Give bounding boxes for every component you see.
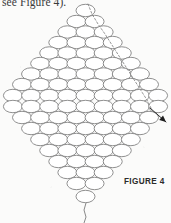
bead: [40, 144, 59, 156]
bead: [3, 89, 22, 101]
bead: [3, 100, 22, 112]
bead: [40, 89, 59, 101]
bead: [112, 100, 131, 112]
bead: [140, 78, 159, 90]
figure-page: see Figure 4). FIGURE 4: [0, 0, 171, 223]
bead: [94, 89, 113, 101]
bead: [149, 100, 168, 112]
bead: [31, 133, 50, 145]
bead: [103, 155, 122, 167]
bead: [103, 78, 122, 90]
bead: [76, 4, 95, 16]
bead: [94, 100, 113, 112]
bead: [40, 100, 59, 112]
bead: [121, 78, 140, 90]
bead: [31, 111, 50, 123]
bead: [12, 111, 31, 123]
bead: [85, 177, 104, 189]
bead: [76, 89, 95, 101]
bead: [94, 166, 113, 178]
bead: [112, 144, 131, 156]
bead: [76, 166, 95, 178]
bead: [76, 122, 95, 134]
bead: [149, 89, 168, 101]
bead: [85, 78, 104, 90]
bead: [121, 133, 140, 145]
bead: [67, 111, 86, 123]
bead: [130, 122, 149, 134]
bottom-thread-tail: [84, 203, 86, 223]
bead: [121, 111, 140, 123]
bead: [58, 166, 77, 178]
bead: [22, 89, 41, 101]
bead: [58, 122, 77, 134]
bead: [112, 89, 131, 101]
bead: [85, 133, 104, 145]
bead: [85, 111, 104, 123]
bead: [67, 78, 86, 90]
bead: [49, 111, 68, 123]
bead: [58, 144, 77, 156]
bead: [12, 78, 31, 90]
bead-grid: [3, 4, 167, 202]
bead: [31, 78, 50, 90]
bead: [94, 144, 113, 156]
bead: [67, 133, 86, 145]
bead: [76, 100, 95, 112]
bead: [85, 155, 104, 167]
bead: [49, 78, 68, 90]
tail-thread-line: [84, 203, 86, 223]
bead: [22, 100, 41, 112]
bead: [94, 122, 113, 134]
bead-diagram-svg: [0, 0, 171, 223]
bead: [67, 177, 86, 189]
bead: [103, 111, 122, 123]
bead: [22, 122, 41, 134]
bead: [58, 89, 77, 101]
bead: [103, 133, 122, 145]
bead: [130, 100, 149, 112]
bead: [58, 100, 77, 112]
bead: [112, 122, 131, 134]
bead: [49, 155, 68, 167]
bead: [49, 133, 68, 145]
bead: [40, 122, 59, 134]
bead: [67, 155, 86, 167]
figure-caption-label: FIGURE 4: [124, 177, 165, 186]
bead: [76, 144, 95, 156]
bead: [76, 190, 95, 202]
